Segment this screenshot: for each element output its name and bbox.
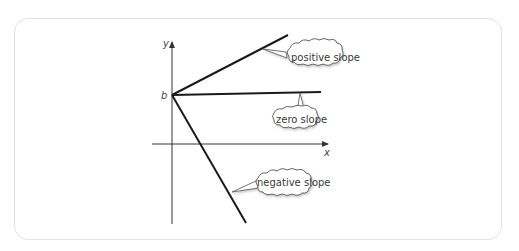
intercept-label: b <box>161 90 167 101</box>
x-axis-label: x <box>323 147 330 158</box>
zero-slope-label: zero slope <box>276 114 327 125</box>
zero-slope-line <box>172 92 321 95</box>
negative-slope-label: negative slope <box>257 177 331 188</box>
y-axis-label: y <box>162 38 170 49</box>
positive-slope-label: positive slope <box>291 52 360 63</box>
negative-slope-line <box>172 95 246 223</box>
positive-slope-line <box>172 35 288 95</box>
slope-diagram: y x b positive slope zero slope negative… <box>0 0 519 251</box>
